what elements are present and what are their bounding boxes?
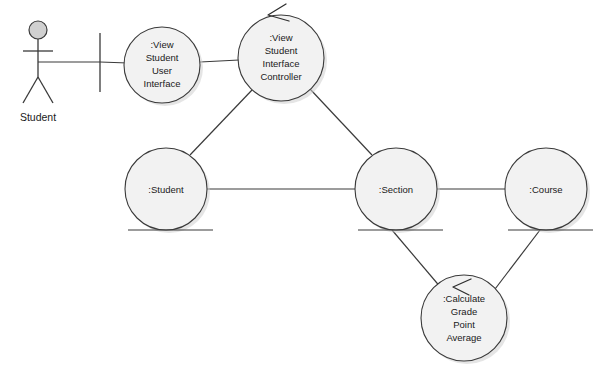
- node-label-line: Controller: [260, 71, 301, 82]
- diagram-canvas: Student :View Student User Interface :Vi…: [0, 0, 602, 372]
- node-student[interactable]: :Student: [125, 148, 213, 233]
- node-label-line: :Course: [529, 184, 562, 195]
- node-label-line: :Section: [379, 184, 413, 195]
- link-view-student-user-interface-to-controller: [200, 60, 239, 62]
- node-label-line: :Student: [148, 184, 184, 195]
- node-label-line: Average: [446, 332, 481, 343]
- node-label-line: :Calculate: [443, 293, 485, 304]
- link-course-to-calculate-grade-point-average: [492, 230, 540, 293]
- node-label-line: :View: [269, 32, 292, 43]
- node-label-line: Point: [453, 319, 475, 330]
- link-controller-to-section: [310, 89, 372, 155]
- node-view-student-interface-controller[interactable]: :View Student Interface Controller: [238, 4, 327, 104]
- node-label-line: Student: [146, 52, 179, 63]
- actor-student: Student: [20, 21, 56, 123]
- uml-communication-diagram: Student :View Student User Interface :Vi…: [0, 0, 602, 372]
- node-view-student-user-interface[interactable]: :View Student User Interface: [124, 27, 203, 106]
- link-controller-to-student: [190, 90, 252, 155]
- actor-label: Student: [20, 111, 56, 123]
- node-label-line: Interface: [144, 78, 181, 89]
- actor-head-icon: [29, 21, 47, 39]
- node-label-line: Grade: [451, 306, 477, 317]
- node-label-line: :View: [150, 39, 173, 50]
- node-label-line: User: [152, 65, 172, 76]
- node-label-line: Student: [265, 45, 298, 56]
- node-calculate-grade-point-average[interactable]: :Calculate Grade Point Average: [421, 275, 510, 364]
- link-section-to-calculate-grade-point-average: [392, 230, 442, 289]
- actor-left-leg-line: [23, 77, 38, 103]
- node-course[interactable]: :Course: [505, 148, 593, 233]
- node-section[interactable]: :Section: [355, 148, 443, 233]
- node-label-line: Interface: [263, 58, 300, 69]
- actor-right-leg-line: [38, 77, 53, 103]
